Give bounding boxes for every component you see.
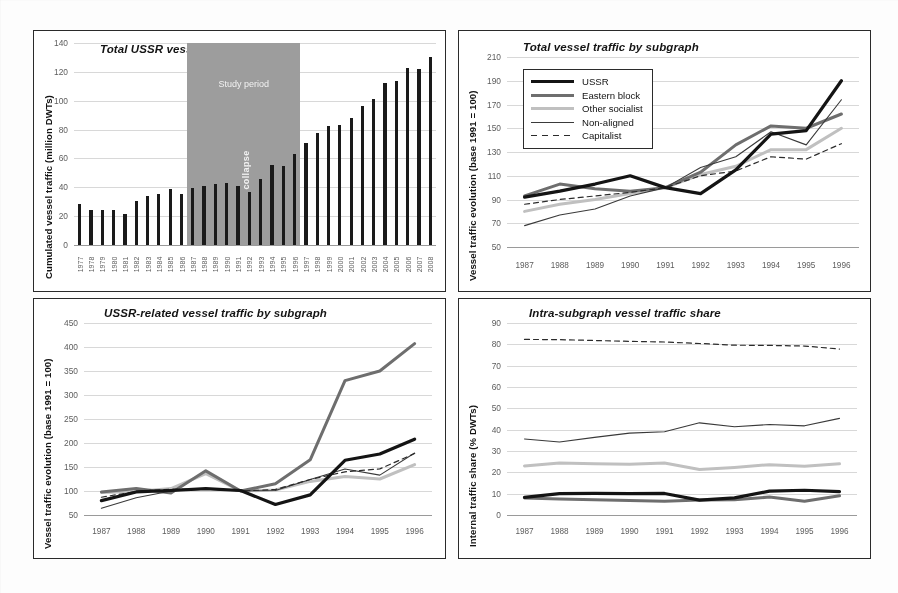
- bar: [259, 179, 262, 245]
- series-line-non-aligned: [101, 453, 414, 508]
- bar: [417, 69, 420, 245]
- bar: [338, 125, 341, 246]
- bar: [236, 186, 239, 245]
- x-tick-label: 1991: [235, 253, 242, 277]
- plot-area-bottom-left: 5010015020025030035040045019871988198919…: [84, 323, 432, 515]
- y-tick-label: 50: [467, 242, 501, 252]
- bar: [112, 210, 115, 245]
- panel-total-ussr-vessel-traffic: Total USSR vessel traffic Cumulated vess…: [33, 30, 446, 292]
- x-tick-label: 2001: [348, 253, 355, 277]
- bar: [316, 133, 319, 246]
- x-tick-label: 1992: [682, 527, 718, 536]
- y-axis-label-bottom-left: Vessel traffic evolution (base 1991 = 10…: [42, 358, 53, 549]
- x-tick-label: 1985: [167, 253, 174, 277]
- plot-area-bottom-right: 0102030405060708090198719881989199019911…: [507, 323, 857, 515]
- legend-label: Non-aligned: [582, 117, 634, 128]
- bar: [202, 186, 205, 245]
- y-tick-label: 190: [467, 76, 501, 86]
- y-tick-label: 80: [34, 125, 68, 135]
- x-tick-label: 1995: [362, 527, 398, 536]
- panel-total-vessel-traffic-by-subgraph: Total vessel traffic by subgraph Vessel …: [458, 30, 871, 292]
- y-tick-label: 450: [44, 318, 78, 328]
- x-tick-label: 2004: [382, 253, 389, 277]
- bar: [282, 166, 285, 245]
- x-tick-label: 1996: [291, 253, 298, 277]
- x-tick-label: 1989: [153, 527, 189, 536]
- bar: [89, 210, 92, 245]
- bar: [361, 106, 364, 245]
- x-tick-label: 1993: [257, 253, 264, 277]
- x-tick-label: 1993: [717, 527, 753, 536]
- panel-title-bottom-right: Intra-subgraph vessel traffic share: [529, 307, 721, 319]
- x-tick-label: 1987: [507, 527, 543, 536]
- bar: [406, 68, 409, 246]
- y-tick-label: 70: [467, 361, 501, 371]
- study-period-label: Study period: [217, 79, 271, 89]
- bar: [225, 183, 228, 245]
- y-tick-label: 0: [34, 240, 68, 250]
- legend-line-sample: [531, 107, 574, 110]
- x-tick-label: 1982: [133, 253, 140, 277]
- y-tick-label: 150: [467, 123, 501, 133]
- y-tick-label: 40: [467, 425, 501, 435]
- x-tick-label: 1989: [577, 261, 613, 270]
- bar: [101, 210, 104, 245]
- x-tick-label: 1991: [223, 527, 259, 536]
- legend-swatch: [531, 89, 574, 101]
- x-tick-label: 1998: [314, 253, 321, 277]
- y-tick-label: 150: [44, 462, 78, 472]
- x-tick-label: 1996: [397, 527, 433, 536]
- bar: [157, 194, 160, 245]
- series-line-capitalist: [525, 144, 842, 205]
- bar: [327, 126, 330, 245]
- x-tick-label: 2007: [416, 253, 423, 277]
- y-tick-label: 60: [34, 153, 68, 163]
- plot-area-top-left: 020406080100120140Study periodcollapse19…: [74, 43, 436, 245]
- x-tick-label: 2008: [427, 253, 434, 277]
- bar: [214, 184, 217, 245]
- x-axis-line: [84, 515, 432, 516]
- x-tick-label: 1996: [823, 261, 859, 270]
- legend-swatch: [531, 116, 574, 128]
- legend-item-capitalist: Capitalist: [531, 129, 643, 143]
- bar: [293, 154, 296, 245]
- x-tick-label: 1994: [753, 261, 789, 270]
- x-tick-label: 1987: [189, 253, 196, 277]
- x-tick-label: 1977: [76, 253, 83, 277]
- y-tick-label: 70: [467, 218, 501, 228]
- x-tick-label: 1994: [269, 253, 276, 277]
- x-tick-label: 1987: [507, 261, 543, 270]
- legend-line-sample: [531, 80, 574, 83]
- x-tick-label: 1990: [223, 253, 230, 277]
- legend-item-eastern-block: Eastern block: [531, 89, 643, 103]
- x-tick-label: 1990: [612, 527, 648, 536]
- y-tick-label: 250: [44, 414, 78, 424]
- bar: [191, 188, 194, 245]
- x-tick-label: 1987: [83, 527, 119, 536]
- legend-line-sample: [531, 135, 574, 136]
- panel-ussr-related-vessel-traffic-by-subgraph: USSR-related vessel traffic by subgraph …: [33, 298, 446, 559]
- y-tick-label: 100: [34, 96, 68, 106]
- collapse-label: collapse: [241, 150, 251, 190]
- x-tick-label: 1993: [718, 261, 754, 270]
- legend-line-sample: [531, 94, 574, 97]
- legend-label: Eastern block: [582, 90, 640, 101]
- legend-swatch: [531, 76, 574, 88]
- bar: [429, 57, 432, 245]
- bar: [350, 118, 353, 245]
- x-tick-label: 1980: [110, 253, 117, 277]
- x-tick-label: 1984: [155, 253, 162, 277]
- bar: [169, 189, 172, 245]
- x-tick-label: 1992: [246, 253, 253, 277]
- y-tick-label: 400: [44, 342, 78, 352]
- bar: [78, 204, 81, 245]
- x-tick-label: 1990: [612, 261, 648, 270]
- y-tick-label: 20: [34, 211, 68, 221]
- x-tick-label: 1991: [647, 527, 683, 536]
- figure-page: Total USSR vessel traffic Cumulated vess…: [0, 0, 898, 593]
- x-tick-label: 1996: [822, 527, 858, 536]
- x-tick-label: 2002: [359, 253, 366, 277]
- x-tick-label: 1989: [212, 253, 219, 277]
- panel-title-bottom-left: USSR-related vessel traffic by subgraph: [104, 307, 327, 319]
- y-tick-label: 130: [467, 147, 501, 157]
